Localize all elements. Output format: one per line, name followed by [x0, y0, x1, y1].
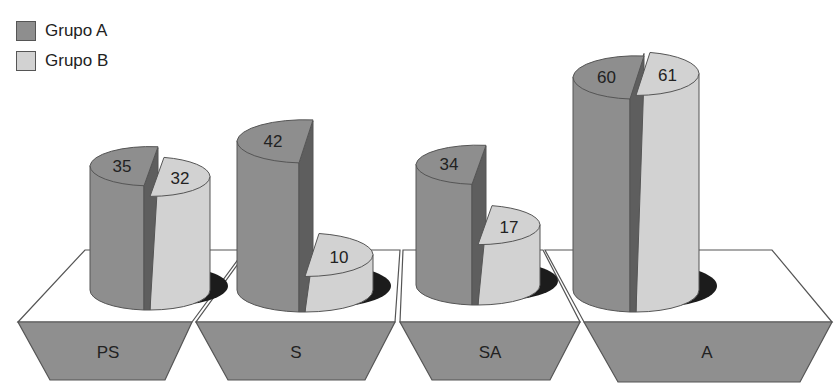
data-label-grupo-a: 60 [597, 68, 616, 87]
category-label: SA [479, 343, 502, 362]
data-label-grupo-a: 34 [440, 155, 459, 174]
bar-grupo-a-s [237, 141, 299, 312]
legend: Grupo A Grupo B [16, 16, 108, 76]
category-label: PS [97, 343, 120, 362]
bar-grupo-b-a [636, 73, 699, 312]
data-label-grupo-b: 17 [500, 218, 519, 237]
bar-grupo-a-ps [90, 166, 144, 310]
data-label-grupo-b: 32 [171, 169, 190, 188]
category-label: A [701, 343, 713, 362]
data-label-grupo-a: 35 [113, 157, 132, 176]
data-label-grupo-a: 42 [264, 132, 283, 151]
category-label: S [290, 343, 301, 362]
data-label-grupo-b: 61 [658, 66, 677, 85]
legend-item-grupo-a: Grupo A [16, 16, 108, 46]
legend-item-grupo-b: Grupo B [16, 46, 108, 76]
legend-label: Grupo A [45, 21, 107, 41]
legend-swatch-grupo-b [16, 51, 36, 71]
legend-label: Grupo B [45, 51, 108, 71]
bar-grupo-a-sa [416, 164, 472, 305]
bar-grupo-a-a [573, 77, 630, 312]
data-label-grupo-b: 10 [330, 248, 349, 267]
chart-canvas: PSSSAA 3532421034176061 [0, 0, 840, 387]
legend-swatch-grupo-a [16, 21, 36, 41]
